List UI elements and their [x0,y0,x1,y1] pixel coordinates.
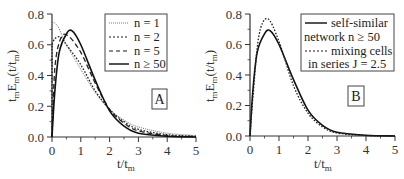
svg-text:t/tm: t/tm [314,156,332,173]
svg-text:2: 2 [305,142,312,157]
svg-text:0.2: 0.2 [226,98,242,113]
svg-text:4: 4 [363,142,370,157]
legend-b-line3: mixing cells [331,44,393,58]
figure: 0123450.00.20.40.60.8 tmEm(t/tm) t/tm n … [0,0,404,179]
svg-text:2: 2 [106,143,113,158]
svg-text:5: 5 [193,143,200,158]
panel-b-ylabel: tmEm(t/tm) [202,50,219,102]
svg-text:0.4: 0.4 [226,68,243,83]
legend-b-line2: network n ≥ 50 [304,30,380,44]
svg-text:A: A [154,92,165,107]
svg-text:0.4: 0.4 [28,68,45,83]
legend-b-line4: in series J = 2.5 [308,57,386,71]
svg-text:1: 1 [78,143,85,158]
panel-a-xlabel: t/tm [117,156,135,173]
svg-text:t/tm: t/tm [117,156,135,173]
svg-text:B: B [351,89,360,104]
panel-b-legend: self-similar network n ≥ 50 mixing cells… [301,14,394,71]
svg-text:0.8: 0.8 [226,7,242,22]
svg-text:0.8: 0.8 [28,7,44,22]
svg-text:0: 0 [49,143,56,158]
svg-text:1: 1 [276,142,283,157]
panel-a-ylabel: tmEm(t/tm) [4,50,21,102]
legend-a-n50: n ≥ 50 [134,57,166,71]
panel-b-xlabel: t/tm [314,156,332,173]
svg-text:tmEm(t/tm): tmEm(t/tm) [202,50,219,102]
legend-a-n5: n = 5 [134,44,160,58]
svg-text:3: 3 [334,142,341,157]
svg-text:0.0: 0.0 [226,129,242,144]
legend-a-n1: n = 1 [134,16,160,30]
svg-text:5: 5 [392,142,399,157]
panel-a: 0123450.00.20.40.60.8 tmEm(t/tm) t/tm n … [4,7,199,174]
svg-text:3: 3 [135,143,142,158]
panel-a-legend: n = 1 n = 2 n = 5 n ≥ 50 [105,14,167,71]
panel-a-letter-box: A [152,89,167,109]
svg-text:4: 4 [164,143,171,158]
svg-text:0.6: 0.6 [226,37,243,52]
svg-text:tmEm(t/tm): tmEm(t/tm) [4,50,21,102]
legend-b-line1: self-similar [331,16,389,30]
svg-text:0.6: 0.6 [28,37,45,52]
svg-text:0: 0 [247,142,254,157]
svg-text:0.2: 0.2 [28,99,44,114]
panel-b-letter-box: B [348,86,364,106]
svg-text:0.0: 0.0 [28,130,44,145]
panel-b: 0123450.00.20.40.60.8 tmEm(t/tm) t/tm se… [202,7,398,174]
legend-a-n2: n = 2 [134,30,160,44]
